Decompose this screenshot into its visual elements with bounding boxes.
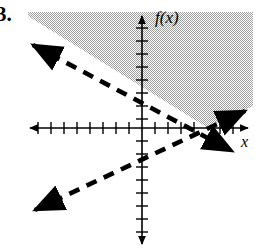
boundary-line-2 bbox=[35, 111, 245, 210]
coordinate-plane bbox=[0, 0, 263, 252]
y-axis-label: f(x) bbox=[155, 8, 179, 28]
graph-figure: 3. bbox=[0, 0, 263, 252]
shaded-solution-region bbox=[28, 12, 253, 128]
x-axis-label: x bbox=[241, 133, 248, 151]
